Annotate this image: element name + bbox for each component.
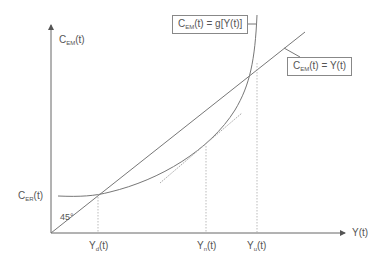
x-tick-yu: Yu(t) bbox=[247, 241, 266, 252]
line-callout-connector bbox=[284, 48, 300, 57]
x-tick-yd: Yd(t) bbox=[89, 241, 108, 252]
consumption-curve bbox=[58, 15, 257, 196]
angle-label: 45° bbox=[60, 213, 74, 222]
y-axis-label: CEM(t) bbox=[59, 35, 85, 46]
x-tick-yn: Yn(t) bbox=[197, 241, 216, 252]
line-callout-box: CEM(t) = Y(t) bbox=[287, 57, 352, 76]
curve-callout-box: CEM(t) = g[Y(t)] bbox=[172, 15, 248, 34]
tangent-line bbox=[160, 113, 242, 183]
x-axis-label: Y(t) bbox=[352, 228, 368, 238]
forty-five-degree-line bbox=[51, 32, 305, 233]
intercept-label: CER(t) bbox=[18, 191, 43, 202]
diagram-canvas bbox=[0, 0, 384, 264]
